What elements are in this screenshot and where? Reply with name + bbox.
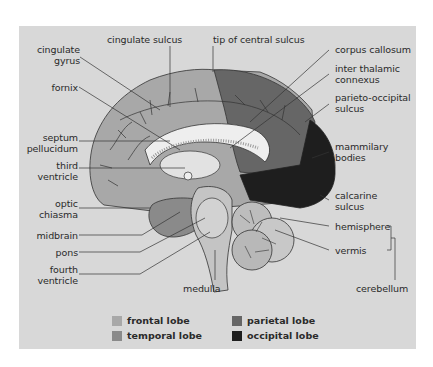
label-cingulate-sulcus: cingulate sulcus [107,34,182,45]
legend-parietal-lobe: parietal lobe [232,315,315,326]
legend-temporal-lobe: temporal lobe [112,330,202,341]
legend-label: occipital lobe [247,330,319,341]
label-fornix: fornix [28,82,78,93]
legend-label: frontal lobe [127,315,190,326]
label-parieto-occipital-sulcus: parieto-occipital sulcus [335,92,411,114]
label-corpus-callosum: corpus callosum [335,44,411,55]
label-tip-of-central-sulcus: tip of central sulcus [213,34,305,45]
label-vermis: vermis [335,245,366,256]
label-midbrain: midbrain [20,230,78,241]
label-hemisphere: hemisphere [335,221,390,232]
label-septum-pellucidum: septum pellucidum [20,132,78,154]
legend-label: parietal lobe [247,315,315,326]
legend-label: temporal lobe [127,330,202,341]
label-inter-thalamic-connexus: inter thalamic connexus [335,63,400,85]
label-calcarine-sulcus: calcarine sulcus [335,190,377,212]
occipital-lobe-swatch [232,331,242,341]
label-optic-chiasma: optic chiasma [20,198,78,220]
cerebellum-shape [232,202,294,270]
label-mammilary-bodies: mammilary bodies [335,141,388,163]
label-fourth-ventricle: fourth ventricle [20,264,78,286]
label-cingulate-gyrus: cingulate gyrus [28,44,80,66]
label-third-ventricle: third ventricle [20,160,78,182]
legend-occipital-lobe: occipital lobe [232,330,319,341]
label-cerebellum: cerebellum [356,283,408,294]
label-pons: pons [20,247,78,258]
temporal-lobe-swatch [112,331,122,341]
frontal-lobe-swatch [112,316,122,326]
parietal-lobe-swatch [232,316,242,326]
label-medulla: medulla [183,283,221,294]
legend-frontal-lobe: frontal lobe [112,315,190,326]
